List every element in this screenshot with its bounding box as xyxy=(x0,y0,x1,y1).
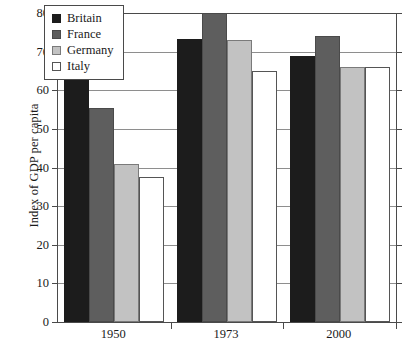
y-tick-mark-right xyxy=(396,283,402,284)
x-tick-mark xyxy=(283,322,284,329)
bar-france-1950 xyxy=(89,108,114,322)
y-axis-tick-label: 50 xyxy=(37,121,50,136)
x-axis-category-label: 2000 xyxy=(326,327,351,342)
y-axis-tick-label: 10 xyxy=(37,276,50,291)
x-tick-mark xyxy=(171,322,172,329)
y-tick-mark-right xyxy=(396,168,402,169)
legend-item-germany: Germany xyxy=(52,42,114,58)
legend-swatch-icon xyxy=(52,14,61,23)
x-tick-mark xyxy=(396,322,397,329)
bar-france-1973 xyxy=(202,13,227,322)
x-axis-category-label: 1950 xyxy=(101,327,126,342)
bar-germany-2000 xyxy=(340,67,365,322)
bar-germany-1950 xyxy=(114,164,139,322)
legend-swatch-icon xyxy=(52,30,61,39)
legend-swatch-icon xyxy=(52,62,61,71)
legend-swatch-icon xyxy=(52,46,61,55)
chart-legend: BritainFranceGermanyItaly xyxy=(44,5,124,80)
legend-label: France xyxy=(67,28,101,41)
bar-italy-1950 xyxy=(139,177,164,322)
bar-france-2000 xyxy=(315,36,340,322)
legend-label: Italy xyxy=(67,60,90,73)
y-tick-mark xyxy=(52,245,58,246)
x-axis-category-label: 1973 xyxy=(214,327,239,342)
y-tick-mark xyxy=(52,283,58,284)
y-tick-mark-right xyxy=(396,129,402,130)
bar-italy-2000 xyxy=(365,67,390,322)
y-tick-mark-right xyxy=(396,90,402,91)
legend-label: Britain xyxy=(67,12,102,25)
bar-britain-1950 xyxy=(64,44,89,322)
y-tick-mark xyxy=(52,322,58,323)
y-axis-tick-label: 0 xyxy=(43,315,49,330)
y-axis-tick-label: 20 xyxy=(37,237,50,252)
y-tick-mark xyxy=(52,168,58,169)
y-tick-mark-right xyxy=(396,52,402,53)
bar-britain-2000 xyxy=(290,56,315,323)
y-axis-tick-label: 60 xyxy=(37,83,50,98)
legend-item-italy: Italy xyxy=(52,58,114,74)
bar-germany-1973 xyxy=(227,40,252,322)
y-tick-mark-right xyxy=(396,245,402,246)
bar-britain-1973 xyxy=(177,39,202,322)
y-tick-mark xyxy=(52,129,58,130)
legend-item-britain: Britain xyxy=(52,10,114,26)
y-axis-tick-label: 40 xyxy=(37,160,50,175)
y-tick-mark xyxy=(52,206,58,207)
y-axis-tick-label: 30 xyxy=(37,199,50,214)
bar-italy-1973 xyxy=(252,71,277,322)
legend-label: Germany xyxy=(67,44,114,57)
legend-item-france: France xyxy=(52,26,114,42)
bar-chart: Index of GDP per capita 0102030405060708… xyxy=(0,0,418,355)
y-tick-mark-right xyxy=(396,13,402,14)
y-tick-mark xyxy=(52,90,58,91)
y-tick-mark-right xyxy=(396,206,402,207)
